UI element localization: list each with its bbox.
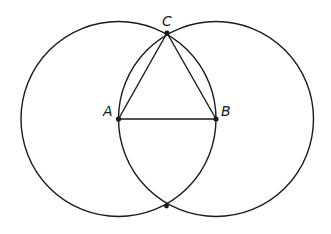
segment-bc: [167, 33, 216, 119]
label-b: B: [221, 103, 231, 119]
point-c: [164, 30, 169, 35]
point-b: [213, 116, 218, 121]
point-bottom-intersection: [164, 204, 169, 209]
label-c: C: [162, 13, 172, 29]
segment-ac: [119, 33, 168, 119]
point-a: [116, 116, 121, 121]
construction-diagram: A B C: [0, 0, 331, 234]
label-a: A: [102, 103, 113, 119]
